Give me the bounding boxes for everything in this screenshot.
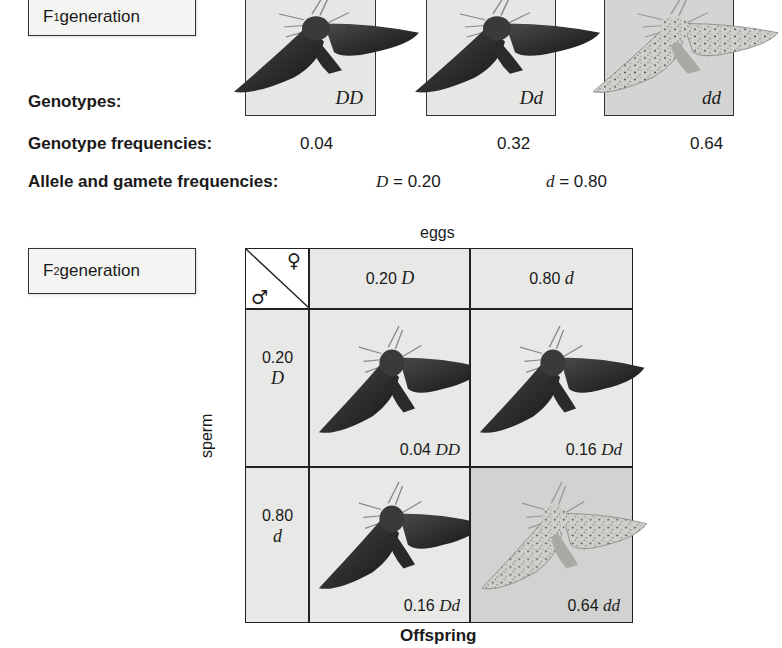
offspring-genotype: dd (603, 596, 620, 615)
allele-recessive-frequency: d = 0.80 (546, 172, 607, 192)
dark-moth-icon (471, 322, 649, 440)
frequency-recessive: 0.64 (690, 134, 723, 154)
egg-header-text: 0.80 d (529, 268, 574, 289)
offspring-freq: 0.64 (567, 597, 603, 614)
male-symbol-icon: ♂ (251, 286, 268, 308)
offspring-genotype: DD (435, 440, 460, 459)
allele-symbol: D (376, 172, 388, 191)
offspring-label: 0.64 dd (567, 596, 620, 616)
light-peppered-moth-icon (583, 0, 782, 99)
sperm-header-text: 0.20 D (246, 348, 309, 388)
sperm-header-text: 0.80 d (246, 506, 309, 546)
grid-line-vertical (469, 249, 471, 622)
offspring-label: 0.04 DD (400, 440, 460, 460)
offspring-freq: 0.16 (566, 441, 602, 458)
offspring-label: 0.16 Dd (404, 596, 460, 616)
genotype-frequencies-label: Genotype frequencies: (28, 134, 212, 154)
f1-title-prefix: F (43, 7, 53, 27)
allele-symbol: d (546, 172, 555, 191)
sperm-freq: 0.80 (246, 506, 309, 526)
f1-title-suffix: generation (60, 7, 140, 27)
genotype-label: Dd (520, 87, 543, 109)
dark-moth-icon (310, 478, 488, 596)
grid-line-horizontal (246, 466, 632, 468)
dark-moth-icon (224, 0, 424, 99)
eggs-label: eggs (420, 224, 455, 242)
sperm-allele: D (246, 368, 309, 388)
allele-gamete-frequencies-label: Allele and gamete frequencies: (28, 172, 278, 192)
sperm-label: sperm (198, 414, 216, 458)
sperm-freq: 0.20 (246, 348, 309, 368)
egg-allele: D (401, 268, 414, 288)
sperm-allele: d (246, 526, 309, 546)
f1-phenotype-dd-dominant: DD (245, 0, 376, 116)
grid-line-vertical-thick (308, 249, 310, 622)
offspring-genotype: Dd (601, 440, 622, 459)
offspring-freq: 0.16 (404, 597, 440, 614)
frequency-dd-dominant: 0.04 (300, 134, 333, 154)
f2-generation-label: F2 generation (28, 248, 196, 294)
punnett-corner-cell: ♀ ♂ (246, 249, 309, 308)
f1-generation-label: F1 generation (28, 0, 196, 36)
punnett-square: ♀ ♂ 0.20 D 0.80 d 0.20 D 0.80 d 0.04 DD … (245, 248, 633, 623)
dark-moth-icon (310, 322, 488, 440)
offspring-cell-heterozygous-bottom: 0.16 Dd (310, 468, 470, 622)
allele-value: = 0.80 (555, 172, 607, 191)
allele-dominant-frequency: D = 0.20 (376, 172, 441, 192)
offspring-cell-heterozygous-top: 0.16 Dd (471, 310, 632, 466)
genotype-label: DD (336, 87, 363, 109)
genotypes-label: Genotypes: (28, 92, 122, 112)
sperm-header-dominant: 0.20 D (246, 310, 309, 466)
offspring-cell-recessive: 0.64 dd (471, 468, 632, 622)
egg-freq: 0.20 (366, 270, 402, 287)
sperm-header-recessive: 0.80 d (246, 468, 309, 622)
allele-value: = 0.20 (388, 172, 440, 191)
grid-line-horizontal-thick (246, 308, 632, 310)
offspring-cell-dd-dominant: 0.04 DD (310, 310, 470, 466)
f1-phenotype-recessive: dd (604, 0, 734, 116)
egg-freq: 0.80 (529, 270, 565, 287)
egg-header-text: 0.20 D (366, 268, 415, 289)
egg-allele: d (565, 268, 574, 288)
egg-header-recessive: 0.80 d (471, 249, 632, 308)
offspring-label: 0.16 Dd (566, 440, 622, 460)
female-symbol-icon: ♀ (287, 249, 301, 271)
f2-title-suffix: generation (60, 261, 140, 281)
dark-moth-icon (405, 0, 605, 99)
offspring-freq: 0.04 (400, 441, 436, 458)
offspring-caption: Offspring (400, 626, 477, 646)
f1-phenotype-heterozygous: Dd (426, 0, 556, 116)
offspring-genotype: Dd (439, 596, 460, 615)
light-peppered-moth-icon (473, 478, 651, 596)
frequency-heterozygous: 0.32 (497, 134, 530, 154)
genotype-label: dd (702, 87, 721, 109)
egg-header-dominant: 0.20 D (310, 249, 470, 308)
f2-title-prefix: F (43, 261, 53, 281)
